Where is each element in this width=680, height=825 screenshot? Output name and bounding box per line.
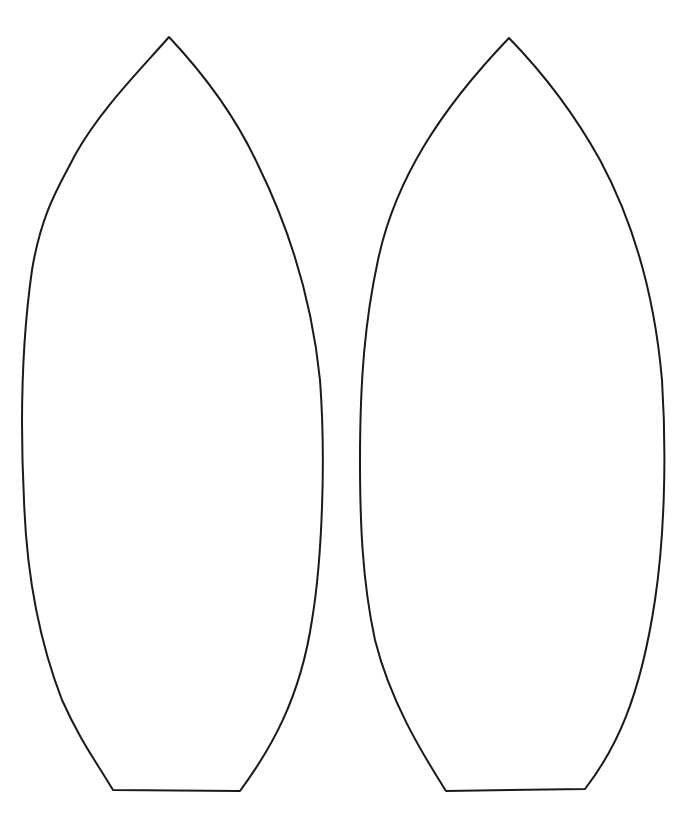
template-canvas (0, 0, 680, 825)
left-shape-outline (22, 37, 323, 791)
right-shape-outline (360, 38, 664, 791)
